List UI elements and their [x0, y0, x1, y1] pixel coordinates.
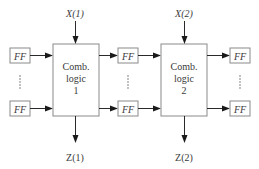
ff-label: FF — [13, 104, 27, 115]
comb-logic-1-line1: Comb. — [63, 61, 90, 72]
arrows-middle-to-comb2 — [138, 53, 161, 112]
comb-logic-2-line2: logic — [174, 73, 195, 84]
input-x2: X(2) — [174, 8, 193, 44]
arrowhead-down-icon — [73, 135, 79, 143]
ff-label: FF — [121, 51, 135, 62]
ff-label: FF — [121, 104, 135, 115]
arrows-comb1-to-middle — [99, 53, 118, 112]
input-x2-label: X(2) — [174, 8, 193, 20]
comb-logic-1-index: 1 — [74, 85, 79, 96]
arrows-comb2-to-right — [207, 53, 230, 112]
sequential-circuit-diagram: FF FF Comb. logic 1 X(1) Z(1) — [0, 0, 259, 169]
ellipsis-dots-left — [19, 75, 20, 88]
ff-label: FF — [233, 51, 247, 62]
arrowhead-down-icon — [182, 36, 188, 44]
output-z2-label: Z(2) — [175, 152, 193, 164]
arrowhead-icon — [110, 106, 118, 112]
ff-column-left: FF FF — [10, 48, 30, 116]
comb-logic-2-line1: Comb. — [171, 61, 198, 72]
ellipsis-dots-middle — [127, 75, 128, 88]
output-z1-label: Z(1) — [66, 152, 84, 164]
arrowhead-icon — [153, 53, 161, 59]
input-x1: X(1) — [65, 8, 84, 44]
arrowhead-down-icon — [182, 135, 188, 143]
comb-logic-block-1: Comb. logic 1 — [53, 44, 99, 116]
comb-logic-block-2: Comb. logic 2 — [161, 44, 207, 116]
comb-logic-1-line2: logic — [66, 73, 87, 84]
arrowhead-icon — [222, 53, 230, 59]
comb-logic-2-index: 2 — [182, 85, 187, 96]
arrowhead-icon — [153, 106, 161, 112]
ff-label: FF — [233, 104, 247, 115]
arrowhead-icon — [222, 106, 230, 112]
ff-label: FF — [13, 51, 27, 62]
ellipsis-dots-right — [239, 75, 240, 88]
arrowhead-down-icon — [73, 36, 79, 44]
ff-column-right: FF FF — [230, 48, 250, 116]
output-z2: Z(2) — [175, 116, 193, 164]
arrowhead-icon — [45, 53, 53, 59]
arrows-left-to-comb1 — [30, 53, 53, 112]
input-x1-label: X(1) — [65, 8, 84, 20]
output-z1: Z(1) — [66, 116, 84, 164]
ff-column-middle: FF FF — [118, 48, 138, 116]
arrowhead-icon — [110, 53, 118, 59]
arrowhead-icon — [45, 106, 53, 112]
